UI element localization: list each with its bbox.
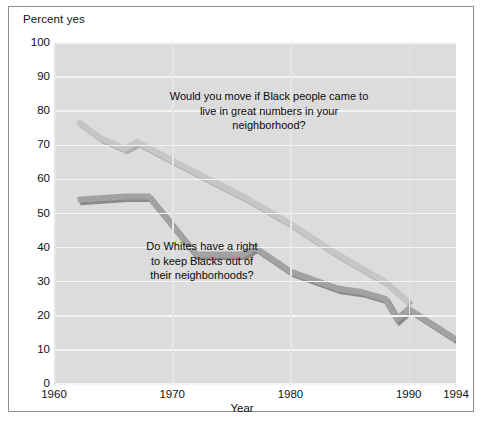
y-tick-label: 40 xyxy=(16,242,50,254)
x-tick-label: 1960 xyxy=(41,388,67,400)
gridline-horizontal xyxy=(54,42,456,44)
y-tick-label: 70 xyxy=(16,139,50,151)
y-tick-label: 60 xyxy=(16,173,50,185)
annotation-would-you-move: Would you move if Black people came to l… xyxy=(144,89,394,133)
x-tick-label: 1994 xyxy=(443,388,469,400)
x-tick-label: 1970 xyxy=(159,388,185,400)
x-axis-title: Year xyxy=(9,402,475,414)
gridline-horizontal xyxy=(54,383,456,385)
gridline-horizontal xyxy=(54,213,456,215)
x-tick-label: 1990 xyxy=(396,388,422,400)
gridline-vertical xyxy=(54,43,56,384)
y-axis-tick-labels: 1009080706050403020100 xyxy=(9,43,50,384)
annotation-do-whites-have-right: Do Whites have a right to keep Blacks ou… xyxy=(112,239,292,283)
y-axis-title: Percent yes xyxy=(23,13,85,25)
y-tick-label: 50 xyxy=(16,208,50,220)
y-tick-label: 80 xyxy=(16,105,50,117)
y-tick-label: 30 xyxy=(16,276,50,288)
y-tick-label: 100 xyxy=(16,37,50,49)
y-tick-label: 10 xyxy=(16,344,50,356)
gridline-horizontal xyxy=(54,76,456,78)
chart-figure: Percent yes 1009080706050403020100 19601… xyxy=(8,6,474,412)
x-tick-label: 1980 xyxy=(278,388,304,400)
gridline-horizontal xyxy=(54,179,456,181)
gridline-horizontal xyxy=(54,315,456,317)
gridline-horizontal xyxy=(54,349,456,351)
y-tick-label: 20 xyxy=(16,310,50,322)
gridline-horizontal xyxy=(54,145,456,147)
y-tick-label: 90 xyxy=(16,71,50,83)
gridline-vertical xyxy=(409,43,411,384)
